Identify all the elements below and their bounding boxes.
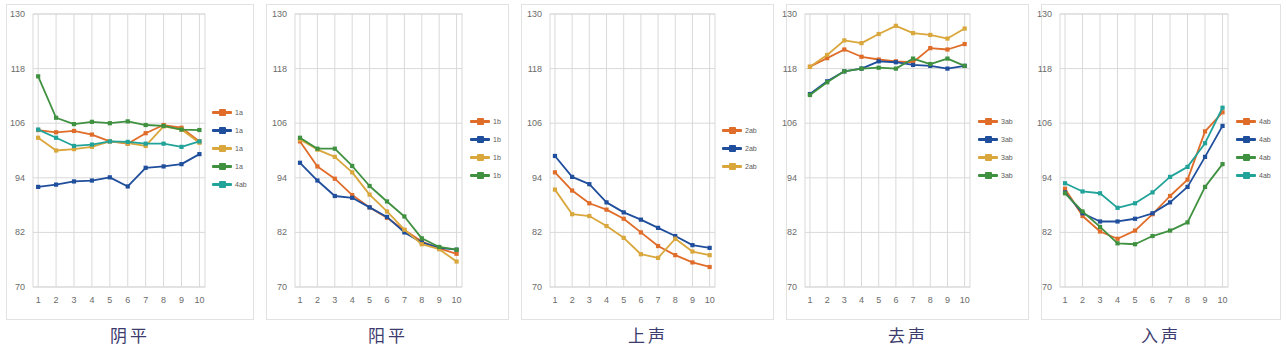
data-point-marker (333, 177, 337, 181)
chart-caption-1: 阴平 (0, 322, 260, 347)
x-axis-tick-label: 4 (859, 295, 864, 305)
legend-item-1a-1[interactable]: 1a (212, 126, 247, 135)
legend-item-4ab-0[interactable]: 4ab (1236, 117, 1271, 126)
x-axis-tick-label: 2 (570, 295, 575, 305)
data-point-marker (1133, 242, 1137, 246)
data-point-marker (72, 129, 76, 133)
plot-box (1060, 14, 1228, 287)
data-point-marker (1203, 141, 1207, 145)
data-point-marker (161, 164, 165, 168)
x-axis-tick-label: 7 (402, 295, 407, 305)
data-point-marker (1098, 229, 1102, 233)
legend-label: 3ab (1001, 117, 1013, 126)
data-point-marker (673, 253, 677, 257)
data-point-marker (963, 26, 967, 30)
chart-caption-4: 去声 (780, 322, 1035, 347)
data-point-marker (90, 132, 94, 136)
data-point-marker (1063, 181, 1067, 185)
legend-item-2ab-2[interactable]: 2ab (722, 162, 757, 171)
legend-item-1b-1[interactable]: 1b (470, 135, 501, 144)
x-axis-tick-label: 1 (1063, 295, 1068, 305)
series-line-4ab-0 (1065, 112, 1223, 238)
x-axis-tick-label: 9 (690, 295, 695, 305)
data-point-marker (708, 246, 712, 250)
y-axis-tick-label: 70 (277, 282, 287, 292)
legend-item-3ab-3[interactable]: 3ab (978, 171, 1013, 180)
x-axis-tick-label: 9 (945, 295, 950, 305)
x-axis-tick-label: 2 (315, 295, 320, 305)
legend-item-2ab-1[interactable]: 2ab (722, 144, 757, 153)
data-point-marker (72, 144, 76, 148)
data-point-marker (144, 123, 148, 127)
data-point-marker (144, 166, 148, 170)
data-point-marker (928, 46, 932, 50)
data-point-marker (72, 179, 76, 183)
data-point-marker (298, 136, 302, 140)
data-point-marker (420, 242, 424, 246)
legend-item-1b-3[interactable]: 1b (470, 171, 501, 180)
data-point-marker (1203, 155, 1207, 159)
data-point-marker (126, 184, 130, 188)
x-axis-tick-label: 7 (1168, 295, 1173, 305)
y-axis-tick-label: 130 (527, 9, 542, 19)
data-point-marker (1080, 209, 1084, 213)
legend-item-4ab-3[interactable]: 4ab (1236, 171, 1271, 180)
legend-item-1a-0[interactable]: 1a (212, 108, 247, 117)
legend-item-1a-3[interactable]: 1a (212, 162, 247, 171)
data-point-marker (402, 228, 406, 232)
x-axis-tick-label: 7 (656, 295, 661, 305)
data-point-marker (570, 188, 574, 192)
legend-item-2ab-0[interactable]: 2ab (722, 126, 757, 135)
data-point-marker (161, 124, 165, 128)
legend-item-3ab-1[interactable]: 3ab (978, 135, 1013, 144)
data-point-marker (673, 237, 677, 241)
data-point-marker (825, 53, 829, 57)
data-point-marker (639, 218, 643, 222)
x-axis-tick-label: 3 (332, 295, 337, 305)
x-axis-tick-label: 7 (143, 295, 148, 305)
data-point-marker (1150, 190, 1154, 194)
legend-item-4ab-1[interactable]: 4ab (1236, 135, 1271, 144)
x-axis-tick-label: 8 (928, 295, 933, 305)
legend-item-1a-2[interactable]: 1a (212, 144, 247, 153)
legend-marker-icon (470, 120, 490, 123)
data-point-marker (877, 59, 881, 63)
data-point-marker (1133, 217, 1137, 221)
data-point-marker (161, 142, 165, 146)
legend-item-4ab-4[interactable]: 4ab (212, 180, 247, 189)
y-axis-tick-label: 118 (273, 64, 287, 74)
data-point-marker (54, 130, 58, 134)
legend-label: 4ab (1259, 117, 1271, 126)
x-axis-tick-label: 8 (1185, 295, 1190, 305)
x-axis-tick-label: 2 (54, 295, 59, 305)
legend-item-1b-2[interactable]: 1b (470, 153, 501, 162)
legend-label: 1b (493, 153, 501, 162)
data-point-marker (639, 230, 643, 234)
legend-label: 2ab (745, 162, 757, 171)
legend-label: 3ab (1001, 135, 1013, 144)
data-point-marker (859, 41, 863, 45)
legend-item-1b-0[interactable]: 1b (470, 117, 501, 126)
legend-item-4ab-2[interactable]: 4ab (1236, 153, 1271, 162)
x-axis-tick-label: 4 (604, 295, 609, 305)
data-point-marker (808, 65, 812, 69)
chart-legend: 1a1a1a1a4ab (212, 108, 247, 189)
legend-label: 1a (235, 126, 243, 135)
data-point-marker (108, 175, 112, 179)
legend-marker-icon (722, 129, 742, 132)
data-point-marker (54, 148, 58, 152)
data-point-marker (859, 55, 863, 59)
data-point-marker (656, 244, 660, 248)
legend-marker-icon (978, 156, 998, 159)
data-point-marker (54, 183, 58, 187)
legend-item-3ab-0[interactable]: 3ab (978, 117, 1013, 126)
data-point-marker (928, 62, 932, 66)
legend-item-3ab-2[interactable]: 3ab (978, 153, 1013, 162)
data-point-marker (1185, 178, 1189, 182)
data-point-marker (90, 142, 94, 146)
data-point-marker (1150, 211, 1154, 215)
data-point-marker (454, 248, 458, 252)
y-axis-tick-label: 118 (783, 64, 797, 74)
x-axis-tick-label: 9 (179, 295, 184, 305)
legend-marker-icon (722, 165, 742, 168)
